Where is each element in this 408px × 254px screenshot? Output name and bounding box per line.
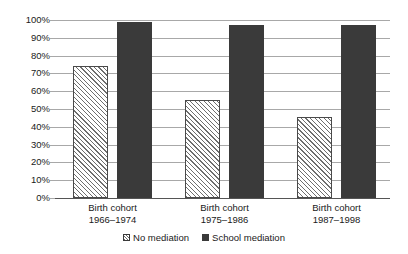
y-tick-label: 40% (4, 122, 50, 132)
y-tick-label: 0% (4, 193, 50, 203)
y-tick-label: 100% (4, 15, 50, 25)
gridline-100 (55, 20, 390, 21)
plot-area (55, 20, 390, 198)
x-category-line2: 1966–1974 (55, 214, 170, 226)
y-axis-tick-labels: 100% 90% 80% 70% 60% 50% 40% 30% 20% 10%… (0, 20, 50, 198)
y-tick-label: 30% (4, 140, 50, 150)
gridline-90 (55, 38, 390, 39)
legend-item-school-mediation: School mediation (202, 232, 285, 243)
bar-no-mediation-1966-1974 (73, 66, 108, 198)
y-tick-label: 70% (4, 68, 50, 78)
bar-no-mediation-1987-1998 (297, 117, 332, 198)
bar-school-mediation-1966-1974 (117, 22, 152, 198)
x-category-line2: 1975–1986 (167, 214, 282, 226)
hatched-swatch-icon (123, 234, 130, 241)
x-axis-category-labels: Birth cohort 1966–1974 Birth cohort 1975… (55, 202, 390, 232)
bar-no-mediation-1975-1986 (185, 100, 220, 198)
bar-school-mediation-1975-1986 (229, 25, 264, 198)
y-tick-label: 60% (4, 86, 50, 96)
bar-school-mediation-1987-1998 (341, 25, 376, 198)
bar-chart-figure: 100% 90% 80% 70% 60% 50% 40% 30% 20% 10%… (0, 0, 408, 254)
y-tick-label: 10% (4, 175, 50, 185)
y-tick-label: 80% (4, 51, 50, 61)
x-category-line2: 1987–1998 (279, 214, 394, 226)
x-category-label-1: Birth cohort 1966–1974 (55, 202, 170, 226)
gridline-80 (55, 56, 390, 57)
solid-swatch-icon (202, 234, 209, 241)
legend-label-school-mediation: School mediation (212, 232, 285, 243)
x-category-label-3: Birth cohort 1987–1998 (279, 202, 394, 226)
legend-item-no-mediation: No mediation (123, 232, 189, 243)
legend-label-no-mediation: No mediation (133, 232, 189, 243)
x-category-line1: Birth cohort (312, 202, 361, 213)
y-tick-label: 90% (4, 33, 50, 43)
x-category-label-2: Birth cohort 1975–1986 (167, 202, 282, 226)
chart-legend: No mediation School mediation (0, 232, 408, 243)
x-category-line1: Birth cohort (88, 202, 137, 213)
axis-baseline (55, 198, 390, 199)
y-tick-label: 50% (4, 104, 50, 114)
y-tick-label: 20% (4, 157, 50, 167)
x-category-line1: Birth cohort (200, 202, 249, 213)
